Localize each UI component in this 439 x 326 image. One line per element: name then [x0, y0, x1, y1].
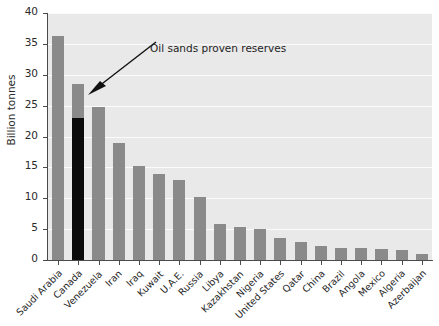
x-tick	[139, 260, 140, 265]
bar-rect	[254, 229, 266, 260]
bar-rect	[92, 107, 104, 260]
y-tick-label: 0	[31, 252, 38, 264]
x-tick	[58, 260, 59, 265]
x-tick	[361, 260, 362, 265]
bar-rect	[274, 238, 286, 260]
bar-rect	[133, 166, 145, 260]
x-tick	[240, 260, 241, 265]
bar-rect	[335, 248, 347, 260]
bar-brazil	[335, 13, 347, 260]
bar-rect	[214, 224, 226, 260]
y-tick-label: 30	[25, 67, 38, 79]
x-tick	[179, 260, 180, 265]
y-tick-label: 5	[31, 221, 38, 233]
bar-china	[315, 13, 327, 260]
y-tick-mark	[43, 260, 48, 261]
x-tick	[422, 260, 423, 265]
bar-rect	[375, 249, 387, 260]
bar-rect	[355, 248, 367, 260]
y-tick-label: 10	[25, 190, 38, 202]
x-tick	[341, 260, 342, 265]
bar-venezuela	[92, 13, 104, 260]
bar-rect	[153, 174, 165, 260]
x-tick	[99, 260, 100, 265]
bar-rect	[113, 143, 125, 260]
x-tick-label: Iran	[103, 268, 124, 289]
x-tick	[159, 260, 160, 265]
y-tick-label: 20	[25, 129, 38, 141]
annotation-label: Oil sands proven reserves	[150, 42, 286, 54]
x-tick	[220, 260, 221, 265]
bar-rect	[315, 246, 327, 260]
chart-figure: Billion tonnes 0510152025303540 Saudi Ar…	[0, 0, 439, 326]
bar-angola	[355, 13, 367, 260]
bar-iran	[113, 13, 125, 260]
bar-azerbaijan	[416, 13, 428, 260]
x-tick	[321, 260, 322, 265]
y-axis-title: Billion tonnes	[5, 55, 17, 165]
x-tick	[78, 260, 79, 265]
x-tick	[402, 260, 403, 265]
x-tick	[260, 260, 261, 265]
x-tick	[301, 260, 302, 265]
bar-iraq	[133, 13, 145, 260]
x-tick	[381, 260, 382, 265]
y-tick-label: 40	[25, 5, 38, 17]
x-tick	[119, 260, 120, 265]
bar-algeria	[396, 13, 408, 260]
bar-rect	[295, 242, 307, 260]
bar-rect	[173, 180, 185, 260]
bar-saudi-arabia	[52, 13, 64, 260]
bar-rect	[194, 197, 206, 260]
x-tick	[200, 260, 201, 265]
bar-rect	[234, 227, 246, 260]
y-tick-label: 35	[25, 36, 38, 48]
y-tick-label: 25	[25, 98, 38, 110]
x-tick	[280, 260, 281, 265]
bar-qatar	[295, 13, 307, 260]
bar-highlight-oil-sands	[72, 118, 84, 260]
bar-rect	[396, 250, 408, 260]
bar-rect	[52, 36, 64, 260]
y-tick-label: 15	[25, 159, 38, 171]
bar-canada	[72, 13, 84, 260]
bar-mexico	[375, 13, 387, 260]
